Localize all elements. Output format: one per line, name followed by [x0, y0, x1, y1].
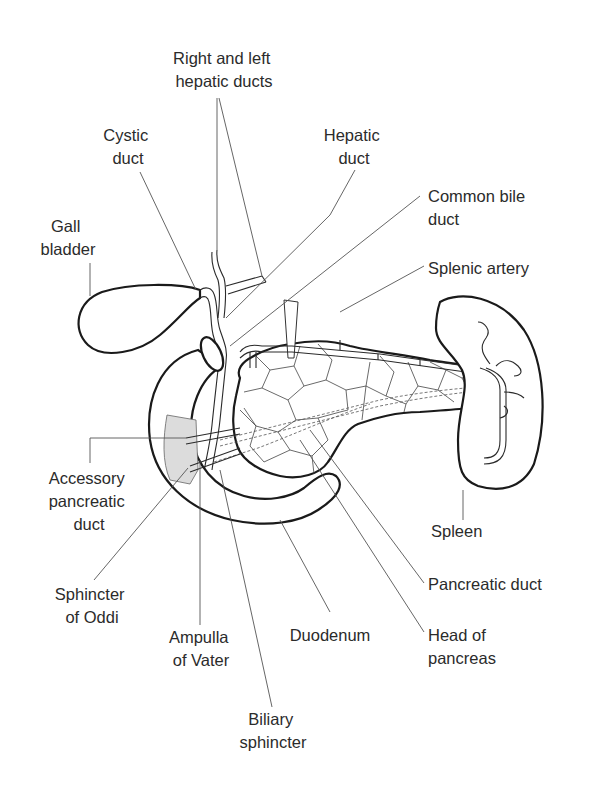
label-splenic-artery: Splenic artery: [428, 259, 530, 277]
label-biliary-sphincter: Biliary sphincter: [240, 710, 307, 751]
label-pancreatic-duct: Pancreatic duct: [428, 575, 542, 593]
label-common-bile-duct: Common bile duct: [428, 187, 530, 228]
label-gall-bladder: Gall bladder: [40, 217, 96, 258]
label-hepatic-duct: Hepatic duct: [324, 126, 385, 167]
gall-bladder-shape: [79, 285, 200, 353]
label-spleen: Spleen: [431, 522, 482, 540]
label-duodenum: Duodenum: [290, 626, 371, 644]
label-ampulla-of-vater: Ampulla of Vater: [169, 628, 233, 669]
anatomy-diagram: Right and left hepatic ducts Cystic duct…: [0, 0, 597, 786]
label-accessory-pancreatic-duct: Accessory pancreatic duct: [49, 469, 130, 533]
sphincter-shaded-region: [164, 415, 198, 484]
label-cystic-duct: Cystic duct: [103, 126, 153, 167]
label-sphincter-of-oddi: Sphincter of Oddi: [55, 585, 129, 626]
label-right-left-hepatic-ducts: Right and left hepatic ducts: [173, 49, 275, 90]
label-head-of-pancreas: Head of pancreas: [428, 626, 496, 667]
